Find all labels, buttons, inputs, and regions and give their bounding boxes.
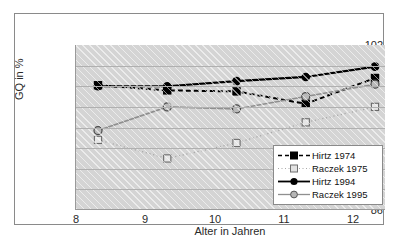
legend-label: Hirtz 1994 <box>312 175 355 188</box>
gridline <box>76 107 385 108</box>
y-axis-title: GQ in % <box>13 58 25 100</box>
x-axis-title: Alter in Jahren <box>75 225 385 237</box>
legend-label: Raczek 1995 <box>312 188 367 201</box>
legend-entry-raczek-1995[interactable]: Raczek 1995 <box>276 188 380 201</box>
data-point-marker <box>371 62 380 71</box>
chart-legend: Hirtz 1974 Raczek 1975 H <box>273 145 383 205</box>
legend-swatch-hirtz-1974 <box>276 149 312 162</box>
legend-swatch-raczek-1975 <box>276 162 312 175</box>
x-tick-label: 9 <box>125 214 165 225</box>
gridline <box>76 128 385 129</box>
gridline <box>76 86 385 87</box>
data-point-marker <box>233 139 240 146</box>
x-tick-label: 10 <box>195 214 235 225</box>
data-point-marker <box>94 136 101 143</box>
legend-swatch-hirtz-1994 <box>276 175 312 188</box>
legend-entry-raczek-1975[interactable]: Raczek 1975 <box>276 162 380 175</box>
legend-entry-hirtz-1974[interactable]: Hirtz 1974 <box>276 149 380 162</box>
data-point-marker <box>232 87 240 95</box>
gridline <box>76 66 385 67</box>
x-tick-label: 8 <box>56 214 96 225</box>
legend-entry-hirtz-1994[interactable]: Hirtz 1994 <box>276 175 380 188</box>
data-point-marker <box>302 119 309 126</box>
chart-screenshot: GQ in % 102 100 98 96 94 92 90 88 86 <box>0 0 399 247</box>
data-point-marker <box>232 77 241 86</box>
x-tick-label: 11 <box>264 214 304 225</box>
data-point-marker <box>302 93 310 101</box>
data-point-marker <box>164 155 171 162</box>
data-point-marker <box>301 73 310 82</box>
legend-swatch-raczek-1995 <box>276 188 312 201</box>
legend-label: Hirtz 1974 <box>312 149 355 162</box>
legend-label: Raczek 1975 <box>312 162 367 175</box>
chart-frame: GQ in % 102 100 98 96 94 92 90 88 86 <box>14 13 384 225</box>
x-tick-label: 12 <box>333 214 373 225</box>
